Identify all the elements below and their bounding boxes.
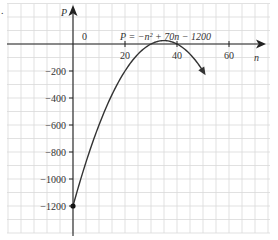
y-tick-label: −800	[45, 147, 66, 158]
y-tick-label: −1000	[40, 174, 66, 185]
equation-label: P = −n² + 70n − 1200	[119, 31, 211, 42]
margin-mark: .	[1, 5, 4, 16]
x-tick-label: 40	[172, 50, 182, 61]
y-axis-label: P	[60, 7, 67, 18]
x-tick-label: 60	[224, 50, 234, 61]
y-tick-label: −400	[45, 93, 66, 104]
labels: . P n 0 P = −n² + 70n − 1200	[1, 5, 259, 63]
y-tick-label: −600	[45, 120, 66, 131]
chart-container: . P n 0 P = −n² + 70n − 1200 204060−200−…	[0, 0, 278, 240]
y-tick-label: −1200	[40, 201, 66, 212]
x-axis-label: n	[254, 52, 259, 63]
curve-arrow-icon	[198, 67, 205, 76]
ticks: 204060−200−400−600−800−1000−1200	[40, 41, 234, 212]
x-tick-label: 20	[120, 50, 130, 61]
origin-label: 0	[82, 31, 87, 42]
y-tick-label: −200	[45, 66, 66, 77]
profit-chart: . P n 0 P = −n² + 70n − 1200 204060−200−…	[0, 0, 278, 240]
